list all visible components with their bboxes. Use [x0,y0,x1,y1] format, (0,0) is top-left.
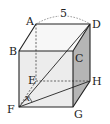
angle-label: x [25,93,30,103]
vertex-label-C: C [75,52,83,65]
vertex-label-E: E [28,74,36,87]
vertex-label-A: A [25,15,35,28]
vertex-label-H: H [92,75,102,88]
cube-diagram: x 5 A D B C E H F G [0,0,110,124]
edge-length-label: 5 [60,7,67,20]
vertex-label-F: F [7,103,15,116]
vertex-label-G: G [74,108,83,121]
vertex-label-D: D [92,18,101,31]
vertex-label-B: B [9,45,17,58]
